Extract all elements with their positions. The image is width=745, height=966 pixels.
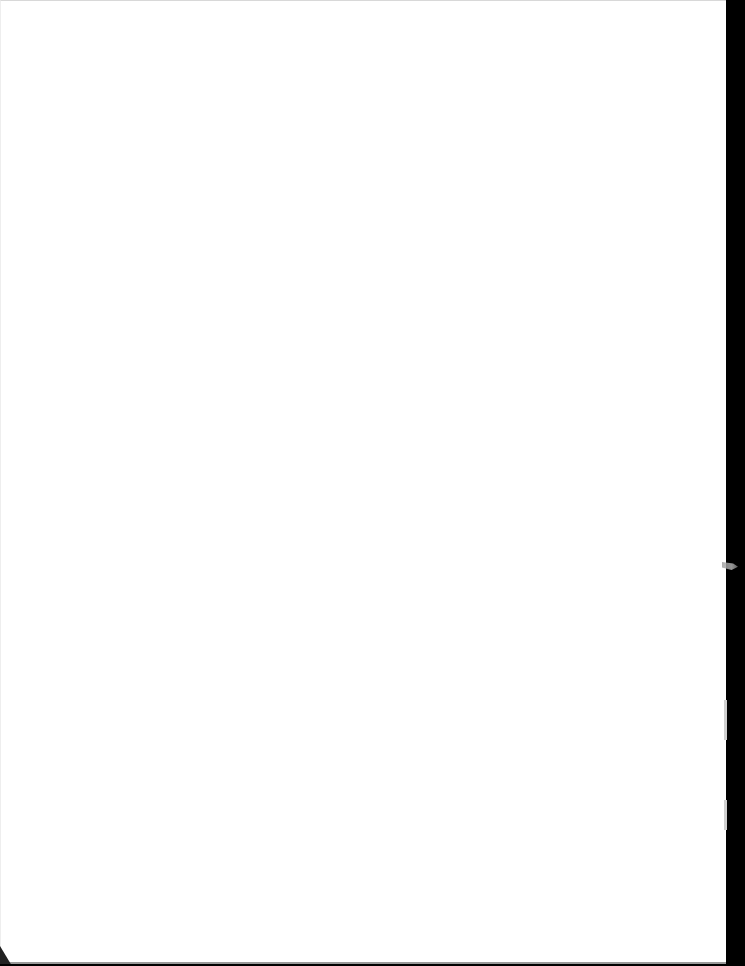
scanned-page-image bbox=[0, 0, 745, 966]
scan-edge-speck bbox=[724, 800, 727, 830]
blank-page bbox=[0, 0, 726, 964]
scan-corner-shadow bbox=[0, 946, 12, 966]
scan-edge-speck bbox=[724, 700, 727, 740]
scan-border-strip bbox=[726, 0, 745, 966]
